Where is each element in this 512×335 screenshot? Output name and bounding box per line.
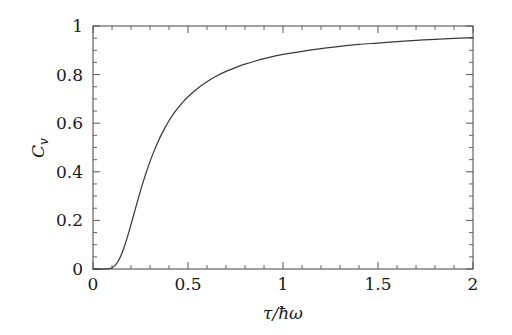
x-axis-tick-labels: 00.511.52	[88, 274, 479, 294]
x-tick-label: 0.5	[174, 274, 201, 294]
x-tick-label: 2	[468, 274, 479, 294]
x-axis-label: τ/ħω	[263, 303, 303, 323]
x-tick-label: 1.5	[364, 274, 391, 294]
data-curve	[93, 38, 473, 269]
plot-frame	[93, 26, 473, 269]
y-axis-label-main: C	[28, 145, 48, 158]
y-tick-label: 0.4	[56, 162, 83, 182]
y-tick-label: 0.6	[56, 113, 83, 133]
axis-ticks	[93, 26, 473, 269]
svg-text:Cv: Cv	[28, 138, 51, 158]
x-tick-label: 1	[278, 274, 289, 294]
y-tick-label: 0.8	[56, 65, 83, 85]
y-tick-label: 0	[72, 259, 83, 279]
y-axis-label: Cv	[28, 138, 51, 158]
y-axis-tick-labels: 00.20.40.60.81	[56, 16, 83, 279]
y-tick-label: 0.2	[56, 210, 83, 230]
y-tick-label: 1	[72, 16, 83, 36]
heat-capacity-chart: 00.511.52 00.20.40.60.81 τ/ħω Cv	[0, 0, 512, 335]
figure-container: 00.511.52 00.20.40.60.81 τ/ħω Cv	[0, 0, 512, 335]
x-tick-label: 0	[88, 274, 99, 294]
y-axis-label-subscript: v	[37, 138, 51, 145]
